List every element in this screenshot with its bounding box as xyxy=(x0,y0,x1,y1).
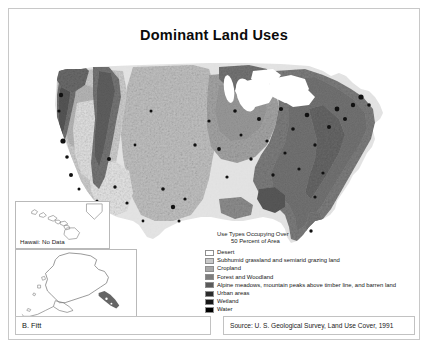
byline: B. Fitt xyxy=(22,321,41,330)
legend-label-grassland: Subhumid grassland and semiarid grazing … xyxy=(217,257,340,264)
legend-swatch-desert xyxy=(205,250,214,256)
legend-header-line1: Use Types Occupying Over xyxy=(217,231,289,237)
legend-swatch-wetland xyxy=(205,299,214,305)
legend-header-line2: 50 Percent of Area xyxy=(231,238,415,245)
legend-item-water: Water xyxy=(205,306,415,314)
hawaii-inset: Hawaii: No Data xyxy=(15,201,110,249)
legend-swatch-water xyxy=(205,307,214,313)
legend-label-water: Water xyxy=(217,306,233,313)
page-title: Dominant Land Uses xyxy=(9,27,419,43)
legend-header: Use Types Occupying Over 50 Percent of A… xyxy=(217,231,415,246)
legend-swatch-alpine xyxy=(205,282,214,288)
legend-label-urban: Urban areas xyxy=(217,290,249,297)
byline-box: B. Fitt xyxy=(15,316,211,335)
legend-item-forest: Forest and Woodland xyxy=(205,273,415,281)
legend: Use Types Occupying Over 50 Percent of A… xyxy=(205,231,415,314)
hawaii-inset-label: Hawaii: No Data xyxy=(20,238,65,245)
legend-item-desert: Desert xyxy=(205,249,415,257)
legend-item-wetland: Wetland xyxy=(205,298,415,306)
legend-swatch-forest xyxy=(205,274,214,280)
legend-label-alpine: Alpine meadows, mountain peaks above tim… xyxy=(217,282,396,289)
legend-label-cropland: Cropland xyxy=(217,265,241,272)
legend-swatch-grassland xyxy=(205,258,214,264)
legend-label-forest: Forest and Woodland xyxy=(217,274,273,281)
legend-swatch-cropland xyxy=(205,266,214,272)
legend-item-cropland: Cropland xyxy=(205,265,415,273)
legend-item-urban: Urban areas xyxy=(205,290,415,298)
source-credit: Source: U. S. Geological Survey, Land Us… xyxy=(230,322,393,329)
source-box: Source: U. S. Geological Survey, Land Us… xyxy=(223,316,415,335)
legend-label-wetland: Wetland xyxy=(217,298,239,305)
legend-label-desert: Desert xyxy=(217,249,234,256)
legend-item-alpine: Alpine meadows, mountain peaks above tim… xyxy=(205,282,415,290)
legend-swatch-urban xyxy=(205,291,214,297)
map-poster: Dominant Land Uses xyxy=(8,8,420,340)
legend-item-grassland: Subhumid grassland and semiarid grazing … xyxy=(205,257,415,265)
